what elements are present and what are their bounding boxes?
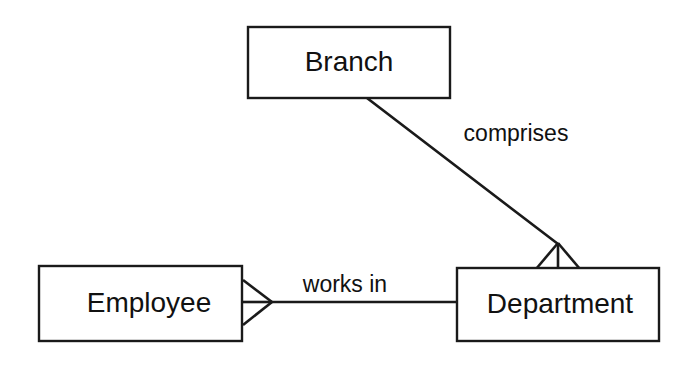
- relationship-label-works-in: works in: [302, 271, 387, 297]
- entity-employee[interactable]: Employee: [39, 266, 242, 341]
- crow-foot-works-in-employee: [243, 280, 272, 325]
- entity-branch[interactable]: Branch: [248, 27, 450, 98]
- er-diagram-svg: Branch Employee Department comprises wor…: [0, 0, 691, 371]
- entity-label-department: Department: [487, 288, 634, 319]
- er-diagram-canvas: Branch Employee Department comprises wor…: [0, 0, 691, 371]
- entity-label-branch: Branch: [305, 46, 394, 77]
- crow-foot-comprises-department: [536, 243, 580, 269]
- entity-department[interactable]: Department: [457, 268, 659, 341]
- relationship-label-comprises: comprises: [464, 120, 569, 146]
- entity-label-employee: Employee: [87, 287, 212, 318]
